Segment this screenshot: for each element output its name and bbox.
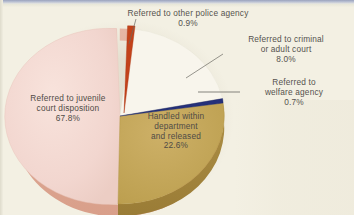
label-juvenile-court-disposition: Referred to juvenile court disposition 6… <box>8 94 128 123</box>
label-criminal-or-adult-court-value: 8.0% <box>223 55 349 65</box>
label-other-police-agency-value: 0.9% <box>88 19 288 29</box>
label-criminal-or-adult-court: Referred to criminal or adult court 8.0% <box>223 35 349 64</box>
label-handled-within-department: Handled within department and released 2… <box>128 112 224 151</box>
left-border-band <box>0 0 3 215</box>
label-welfare-agency: Referred to welfare agency 0.7% <box>238 78 350 107</box>
label-juvenile-court-disposition-value: 67.8% <box>8 114 128 124</box>
label-other-police-agency: Referred to other police agency 0.9% <box>88 9 288 29</box>
top-border-band-secondary <box>0 4 354 7</box>
label-welfare-agency-value: 0.7% <box>238 98 350 108</box>
paper-bleed-through <box>234 100 354 215</box>
label-handled-within-department-value: 22.6% <box>128 141 224 151</box>
pie-chart-figure: Referred to other police agency 0.9% Ref… <box>0 0 354 215</box>
